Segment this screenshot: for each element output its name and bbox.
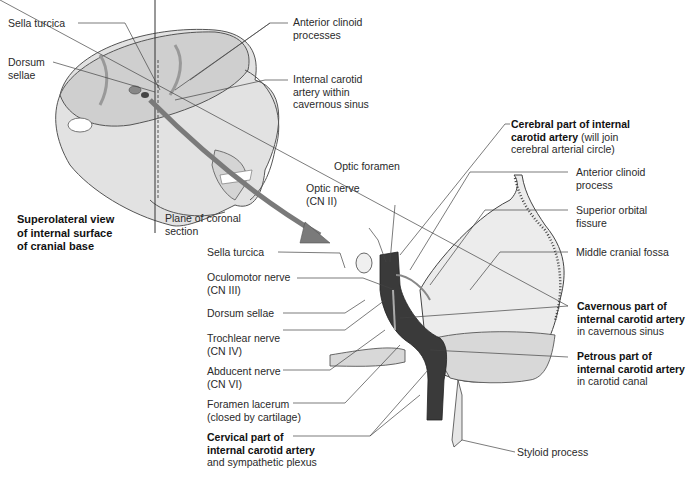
label-line: processes <box>293 29 362 42</box>
label-line: Plane of coronal <box>165 212 241 225</box>
label-anterior-clinoid-process: Anterior clinoid process <box>576 166 645 191</box>
label-optic-nerve: Optic nerve (CN II) <box>306 182 360 207</box>
label-line: Trochlear nerve <box>207 332 280 345</box>
label-line: (CN IV) <box>207 345 280 358</box>
label-cerebral-part-ica: Cerebral part of internal carotid artery… <box>511 118 630 156</box>
label-line: Anterior clinoid <box>293 16 362 29</box>
label-petrous-part-ica: Petrous part of internal carotid artery … <box>577 350 685 388</box>
label-line: Anterior clinoid <box>576 166 645 179</box>
label-line: fissure <box>576 217 647 230</box>
label-internal-carotid-cavernous-top: Internal carotid artery within cavernous… <box>293 73 369 111</box>
label-line: internal carotid artery <box>207 444 317 457</box>
label-trochlear-nerve: Trochlear nerve (CN IV) <box>207 332 280 357</box>
label-line: process <box>576 179 645 192</box>
label-line: (CN III) <box>207 284 290 297</box>
label-line: and sympathetic plexus <box>207 456 317 469</box>
label-line: artery within <box>293 86 369 99</box>
label-line: sellae <box>8 69 45 82</box>
arrow-head <box>300 222 330 243</box>
label-line: Oculomotor nerve <box>207 271 290 284</box>
caption-line: Superolateral view <box>17 213 114 227</box>
label-line: (CN VI) <box>207 378 281 391</box>
label-superior-orbital-fissure: Superior orbital fissure <box>576 204 647 229</box>
label-middle-cranial-fossa: Middle cranial fossa <box>576 246 669 259</box>
label-dorsum-sellae-coronal: Dorsum sellae <box>207 307 274 320</box>
label-line: Optic nerve <box>306 182 360 195</box>
label-abducent-nerve: Abducent nerve (CN VI) <box>207 365 281 390</box>
label-anterior-clinoid-processes: Anterior clinoid processes <box>293 16 362 41</box>
label-line: Dorsum <box>8 56 45 69</box>
label-line: (CN II) <box>306 195 360 208</box>
coronal-section-illustration <box>330 175 564 447</box>
label-line: Superior orbital <box>576 204 647 217</box>
label-bold-part: carotid artery <box>511 131 578 143</box>
caption-line: of internal surface <box>17 227 114 241</box>
label-line: in carotid canal <box>577 375 685 388</box>
label-line: Foramen lacerum <box>207 398 301 411</box>
label-oculomotor-nerve: Oculomotor nerve (CN III) <box>207 271 290 296</box>
label-line: section <box>165 225 241 238</box>
caption-line: of cranial base <box>17 240 114 254</box>
label-cervical-part-ica: Cervical part of internal carotid artery… <box>207 431 317 469</box>
label-sella-turcica-coronal: Sella turcica <box>207 246 264 259</box>
label-line: internal carotid artery <box>577 313 685 326</box>
label-line: (closed by cartilage) <box>207 411 301 424</box>
label-line: Internal carotid <box>293 73 369 86</box>
label-line: cerebral arterial circle) <box>511 143 630 156</box>
label-dorsum-sellae-top: Dorsum sellae <box>8 56 45 81</box>
label-cavernous-part-ica: Cavernous part of internal carotid arter… <box>577 300 685 338</box>
label-line: Abducent nerve <box>207 365 281 378</box>
label-line: Petrous part of <box>577 350 685 363</box>
label-plane-of-coronal-section: Plane of coronal section <box>165 212 241 237</box>
label-foramen-lacerum: Foramen lacerum (closed by cartilage) <box>207 398 301 423</box>
label-rest-part: (will join <box>578 131 618 143</box>
label-styloid-process: Styloid process <box>517 446 588 459</box>
label-line: cavernous sinus <box>293 98 369 111</box>
label-sella-turcica-top: Sella turcica <box>8 17 65 30</box>
caption-superolateral-view: Superolateral view of internal surface o… <box>17 213 114 254</box>
label-line: Cerebral part of internal <box>511 118 630 131</box>
label-line: in cavernous sinus <box>577 325 685 338</box>
label-line: Cavernous part of <box>577 300 685 313</box>
label-optic-foramen: Optic foramen <box>334 160 400 173</box>
label-line: Cervical part of <box>207 431 317 444</box>
label-line: internal carotid artery <box>577 363 685 376</box>
